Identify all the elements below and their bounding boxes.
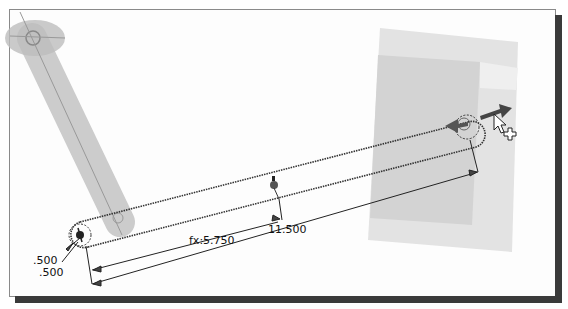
dimension-radius-2[interactable]: .500 [39, 266, 64, 279]
left-center-point[interactable] [69, 224, 91, 246]
dimension-length[interactable]: 11.500 [268, 223, 307, 236]
midpoint-marker[interactable] [270, 176, 279, 199]
ghost-block-part [368, 28, 518, 252]
ghost-link-part [5, 12, 123, 235]
dimension-half-length[interactable]: fx:5.750 [189, 234, 235, 247]
